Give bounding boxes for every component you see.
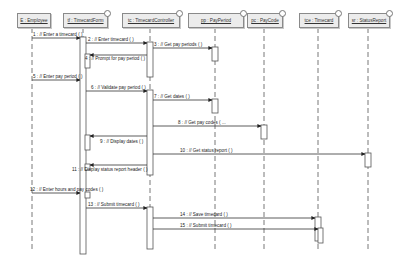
message-label-2[interactable]: 2 : // Enter timecard ( ) bbox=[88, 37, 134, 42]
activation-paycode bbox=[261, 125, 267, 139]
object-statusreport[interactable]: sr : StatusReport bbox=[348, 13, 390, 28]
activation-timecard-2 bbox=[318, 228, 323, 243]
object-timecardcontroller[interactable]: tc : TimecardController bbox=[122, 13, 180, 28]
activation-statusreport bbox=[365, 153, 371, 167]
message-label-1[interactable]: 1 : // Enter a timecard ( ) bbox=[33, 32, 83, 37]
message-label-10[interactable]: 10 : // Get status report ( ) bbox=[180, 148, 233, 153]
object-timecard[interactable]: tce : Timecard bbox=[299, 13, 339, 28]
object-label-timecard: tce : Timecard bbox=[305, 18, 334, 23]
entity-stereotype-icon bbox=[279, 10, 286, 17]
message-label-15[interactable]: 15 : // Submit timecard ( ) bbox=[180, 223, 232, 228]
message-label-13[interactable]: 13 : // Submit timecard ( ) bbox=[88, 202, 140, 207]
object-label-timecardform: tf : TimecardForm bbox=[68, 18, 104, 23]
message-label-6[interactable]: 6 : // Validate pay period ( ) bbox=[91, 85, 146, 90]
message-label-7[interactable]: 7 : // Get dates ( ) bbox=[154, 94, 190, 99]
activation-bars bbox=[80, 37, 371, 254]
object-label-payperiod: pp : PayPeriod bbox=[201, 18, 231, 23]
boundary-stereotype-icon bbox=[104, 10, 111, 17]
object-label-statusreport: sr : StatusReport bbox=[352, 18, 386, 23]
object-label-timecardcontroller: tc : TimecardController bbox=[128, 18, 174, 23]
object-timecardform[interactable]: tf : TimecardForm bbox=[63, 13, 108, 28]
activation-controller-3 bbox=[147, 207, 153, 249]
activation-payperiod-1 bbox=[212, 47, 218, 61]
object-paycode[interactable]: pc : PayCode bbox=[247, 13, 283, 28]
message-label-5[interactable]: 5 : // Enter pay period ( ) bbox=[33, 74, 83, 79]
diagram-canvas bbox=[0, 0, 409, 269]
activation-timecardform-nested-9 bbox=[85, 135, 90, 150]
message-label-14[interactable]: 14 : // Save timecard ( ) bbox=[180, 212, 228, 217]
entity-stereotype-icon bbox=[335, 10, 342, 17]
message-label-4[interactable]: 4 : // Prompt for pay period ( ) bbox=[85, 56, 145, 61]
sequence-diagram: E : Employee tf : TimecardForm tc : Time… bbox=[0, 0, 409, 269]
activation-controller-1 bbox=[147, 42, 153, 77]
message-label-9[interactable]: 9 : // Display dates ( ) bbox=[100, 139, 143, 144]
object-employee[interactable]: E : Employee bbox=[17, 13, 51, 28]
message-label-3[interactable]: 3 : // Get pay periods ( ) bbox=[154, 42, 202, 47]
object-payperiod[interactable]: pp : PayPeriod bbox=[188, 13, 244, 28]
message-label-11[interactable]: 11 : // Display status report header ( ) bbox=[72, 167, 148, 172]
activation-payperiod-2 bbox=[212, 99, 218, 113]
activation-timecardform-nested-12 bbox=[85, 192, 90, 198]
activation-controller-2 bbox=[147, 90, 153, 175]
entity-stereotype-icon bbox=[386, 10, 393, 17]
message-label-8[interactable]: 8 : // Get pay codes ( ... bbox=[178, 120, 226, 125]
object-label-paycode: pc : PayCode bbox=[251, 18, 279, 23]
control-stereotype-icon bbox=[176, 10, 183, 17]
message-label-12[interactable]: 12 : // Enter hours and pay codes ( ) bbox=[30, 187, 103, 192]
entity-stereotype-icon bbox=[240, 10, 247, 17]
object-label-employee: E : Employee bbox=[20, 18, 47, 23]
